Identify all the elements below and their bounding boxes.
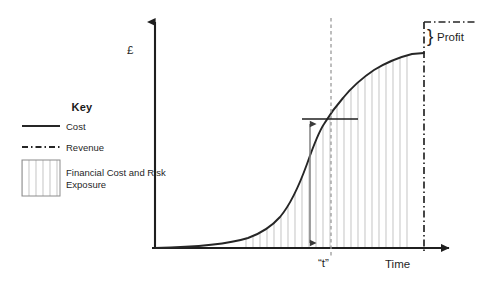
profit-brace: } — [427, 26, 433, 45]
legend-swatch-hatch — [22, 160, 60, 196]
y-axis-label: £ — [127, 44, 133, 56]
legend-item-cost-label: Cost — [66, 121, 86, 133]
legend-item-revenue-label: Revenue — [66, 142, 104, 154]
legend-item-hatch-label: Financial Cost and Risk Exposure — [66, 167, 171, 191]
x-axis-label: Time — [385, 258, 410, 270]
profit-label: Profit — [437, 31, 464, 43]
legend-title: Key — [47, 101, 117, 113]
shaded-region-financial-cost-risk-exposure — [245, 20, 412, 248]
t-marker-label: “t” — [318, 257, 329, 269]
